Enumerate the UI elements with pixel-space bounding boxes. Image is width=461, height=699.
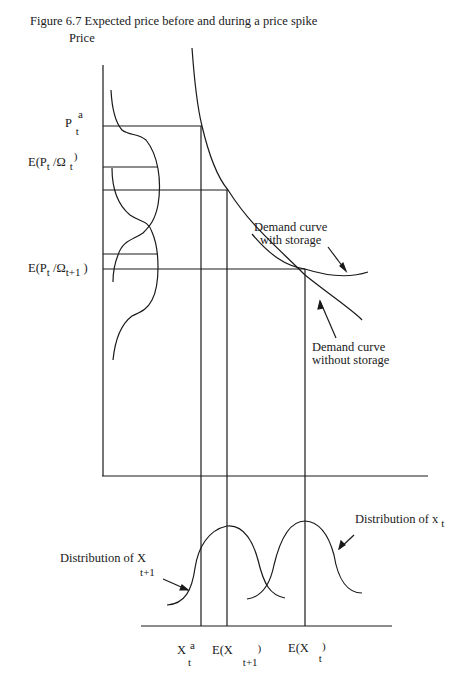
label-e-x-t: E(Xt) bbox=[288, 641, 316, 656]
figure-title: Figure 6.7 Expected price before and dur… bbox=[30, 14, 317, 29]
label-distribution-x-t: Distribution of xt bbox=[355, 512, 441, 527]
label-e-p-omega-t: E(Pt /Ωt) bbox=[28, 155, 72, 170]
y-axis-label: Price bbox=[69, 31, 95, 46]
distribution-x-t1-curve bbox=[167, 526, 285, 605]
label-e-p-omega-t1: E(Pt /Ωt+1 ) bbox=[28, 261, 88, 276]
label-p-actual: Pat bbox=[65, 116, 80, 131]
price-distribution-lower bbox=[112, 168, 158, 360]
label-demand-without-storage: Demand curve without storage bbox=[312, 340, 389, 368]
label-demand-with-storage: Demand curve with storage bbox=[254, 220, 327, 248]
label-distribution-x-t1: Distribution of Xt+1 bbox=[60, 551, 161, 566]
label-e-x-t1: E(Xt+1) bbox=[212, 643, 251, 658]
label-x-actual: Xat bbox=[177, 643, 194, 658]
diagram-canvas bbox=[0, 0, 461, 699]
demand-curve-without-storage bbox=[192, 48, 362, 320]
price-distribution-upper bbox=[111, 90, 160, 282]
